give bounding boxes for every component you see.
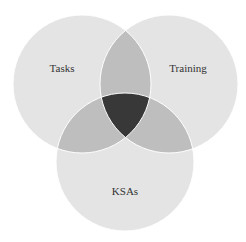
tasks-label: Tasks <box>50 62 75 74</box>
ksas-label: KSAs <box>112 185 138 197</box>
venn-diagram: Tasks Training KSAs <box>0 0 246 242</box>
training-label: Training <box>169 62 207 74</box>
